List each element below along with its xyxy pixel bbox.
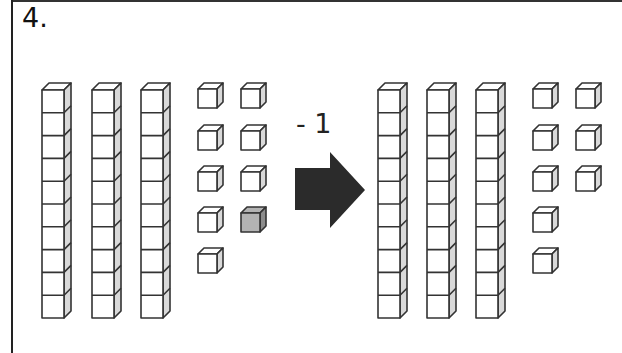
cube-front <box>576 172 595 191</box>
cube-front <box>198 213 217 232</box>
cube-front <box>241 213 260 232</box>
cube-front <box>533 213 552 232</box>
base-ten-blocks-scene <box>0 0 622 353</box>
before-blocks <box>42 83 266 318</box>
after-blocks <box>378 83 601 318</box>
unit-cube <box>533 125 558 150</box>
unit-cube <box>198 207 223 232</box>
unit-cube <box>198 166 223 191</box>
cube-front <box>241 131 260 150</box>
unit-cube <box>576 83 601 108</box>
tens-rod <box>42 83 71 318</box>
cube-front <box>198 254 217 273</box>
cube-front <box>241 89 260 108</box>
tens-rod <box>92 83 121 318</box>
cube-front <box>533 131 552 150</box>
cube-front <box>198 131 217 150</box>
tens-rod <box>141 83 170 318</box>
cube-front <box>533 172 552 191</box>
cube-front <box>576 89 595 108</box>
cube-front <box>198 172 217 191</box>
tens-rod <box>378 83 407 318</box>
cube-front <box>533 254 552 273</box>
unit-cube <box>198 83 223 108</box>
unit-cube <box>533 248 558 273</box>
unit-cube <box>576 166 601 191</box>
cube-front <box>198 89 217 108</box>
unit-cube <box>241 207 266 232</box>
tens-rod <box>427 83 456 318</box>
unit-cube <box>533 83 558 108</box>
unit-cube <box>198 125 223 150</box>
unit-cube <box>241 166 266 191</box>
cube-front <box>576 131 595 150</box>
tens-rod <box>476 83 505 318</box>
unit-cube <box>198 248 223 273</box>
unit-cube <box>241 83 266 108</box>
cube-front <box>241 172 260 191</box>
unit-cube <box>533 166 558 191</box>
unit-cube <box>241 125 266 150</box>
right-arrow-icon <box>295 152 365 228</box>
cube-front <box>533 89 552 108</box>
unit-cube <box>576 125 601 150</box>
unit-cube <box>533 207 558 232</box>
